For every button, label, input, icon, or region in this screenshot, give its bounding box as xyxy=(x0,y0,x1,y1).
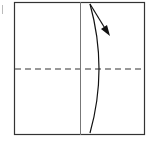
fold-diagram xyxy=(0,0,149,141)
